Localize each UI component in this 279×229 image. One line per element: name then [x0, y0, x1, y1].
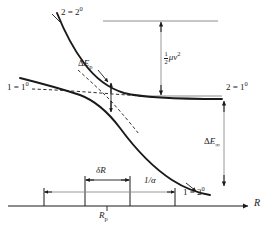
kinetic-energy-label: 1 2 μv2: [164, 51, 181, 66]
x-axis-label: R: [254, 198, 260, 208]
curve-upper-adiabatic: [57, 13, 222, 99]
label-leaders: [52, 14, 196, 191]
r-axis: [8, 176, 248, 211]
curve-label-lower-left: 1 = 10: [7, 83, 29, 92]
diabatic-curve-lower: [78, 70, 139, 134]
asymptotic-energy-label: ΔE∞: [204, 137, 220, 146]
curve-label-upper-left: 2 = 20: [61, 8, 83, 17]
delta-r-label: δR: [96, 166, 106, 175]
gap-energy-label: ΔEp: [78, 59, 93, 68]
curve-label-lower-right: 1 = 20: [183, 188, 205, 197]
inverse-alpha-label: 1/α: [144, 176, 156, 185]
potential-energy-diagram: 2 = 20 1 = 10 2 = 10 1 = 20 1 2 μv2 ΔEp …: [0, 0, 279, 229]
diagram-canvas: [0, 0, 279, 229]
adiabatic-curves: [20, 13, 222, 195]
curve-label-upper-right: 2 = 10: [226, 83, 248, 92]
rp-label: Rp: [99, 211, 108, 220]
energy-levels: [103, 21, 222, 96]
one-half-fraction: 1 2: [164, 51, 168, 66]
